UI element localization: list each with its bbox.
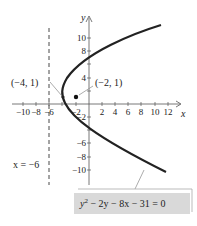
parabola-chart: −10 −8 −6 −2 2 4 6 8 10 12 x 10 8 4 −2 −… [0,0,197,226]
svg-text:8: 8 [139,107,144,117]
focus-label: (−2, 1) [95,77,122,89]
svg-text:4: 4 [113,107,118,117]
svg-text:6: 6 [126,107,131,117]
vertex-point [61,95,64,98]
equation-leader [135,170,144,189]
x-axis-label: x [180,108,186,119]
svg-text:−8: −8 [31,107,41,117]
x-tick-labels: −10 −8 −6 −2 2 4 6 8 10 12 [16,107,173,117]
vertex-leader [50,82,62,96]
svg-text:−6: −6 [76,138,86,148]
y-axis-label: y [80,12,86,23]
svg-text:−8: −8 [76,152,86,162]
focus-point [74,95,78,99]
svg-text:12: 12 [164,107,173,117]
focus-leader [79,86,93,95]
vertex-label: (−4, 1) [11,77,38,89]
directrix-label: x = −6 [13,159,39,170]
svg-text:10: 10 [151,107,161,117]
svg-text:10: 10 [77,33,87,43]
parabola-curve [62,25,166,172]
svg-text:4: 4 [82,73,87,83]
equation-text: y2 − 2y − 8x − 31 = 0 [79,197,166,209]
svg-text:−10: −10 [16,107,31,117]
svg-text:8: 8 [82,46,87,56]
svg-text:2: 2 [100,107,105,117]
svg-text:−10: −10 [72,165,87,175]
